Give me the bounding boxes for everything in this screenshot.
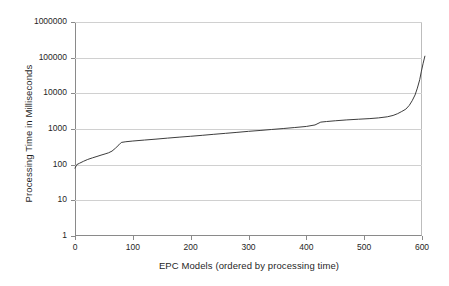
x-tick-mark [364, 236, 365, 240]
data-series-line [75, 22, 422, 236]
x-axis-title: EPC Models (ordered by processing time) [75, 260, 423, 271]
x-tick-mark [191, 236, 192, 240]
y-tick-label: 10 [0, 194, 67, 204]
x-tick-mark [422, 236, 423, 240]
x-tick-mark [133, 236, 134, 240]
x-tick-label: 600 [407, 242, 437, 252]
x-tick-label: 500 [349, 242, 379, 252]
x-tick-label: 200 [176, 242, 206, 252]
x-tick-mark [75, 236, 76, 240]
chart-figure: Processing Time in Milliseconds 11010010… [0, 0, 449, 286]
x-tick-label: 400 [291, 242, 321, 252]
x-tick-label: 300 [234, 242, 264, 252]
x-tick-mark [306, 236, 307, 240]
y-tick-label: 1000 [0, 123, 67, 133]
y-tick-label: 10000 [0, 87, 67, 97]
y-tick-label: 1 [0, 230, 67, 240]
y-tick-label: 1000000 [0, 16, 67, 26]
y-tick-label: 100000 [0, 52, 67, 62]
x-tick-label: 0 [60, 242, 90, 252]
y-tick-label: 100 [0, 159, 67, 169]
plot-area [75, 22, 422, 236]
x-tick-label: 100 [118, 242, 148, 252]
x-tick-mark [249, 236, 250, 240]
